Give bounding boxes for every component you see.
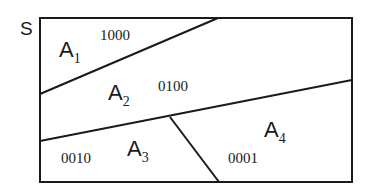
region-code-a2: 0100	[158, 78, 188, 94]
region-label-a2: A2	[108, 80, 130, 109]
region-label-a3: A3	[127, 136, 149, 165]
divider-a2-a3a4	[40, 80, 352, 141]
region-code-a4: 0001	[228, 150, 258, 166]
region-code-a3: 0010	[61, 150, 91, 166]
region-code-a1: 1000	[100, 27, 130, 43]
divider-a3-a4	[170, 117, 219, 182]
partition-diagram: S A1 1000 A2 0100 A3 0010 A4 0001	[0, 0, 367, 195]
set-label: S	[20, 18, 33, 39]
region-label-a1: A1	[59, 37, 81, 66]
region-label-a4: A4	[264, 117, 286, 146]
